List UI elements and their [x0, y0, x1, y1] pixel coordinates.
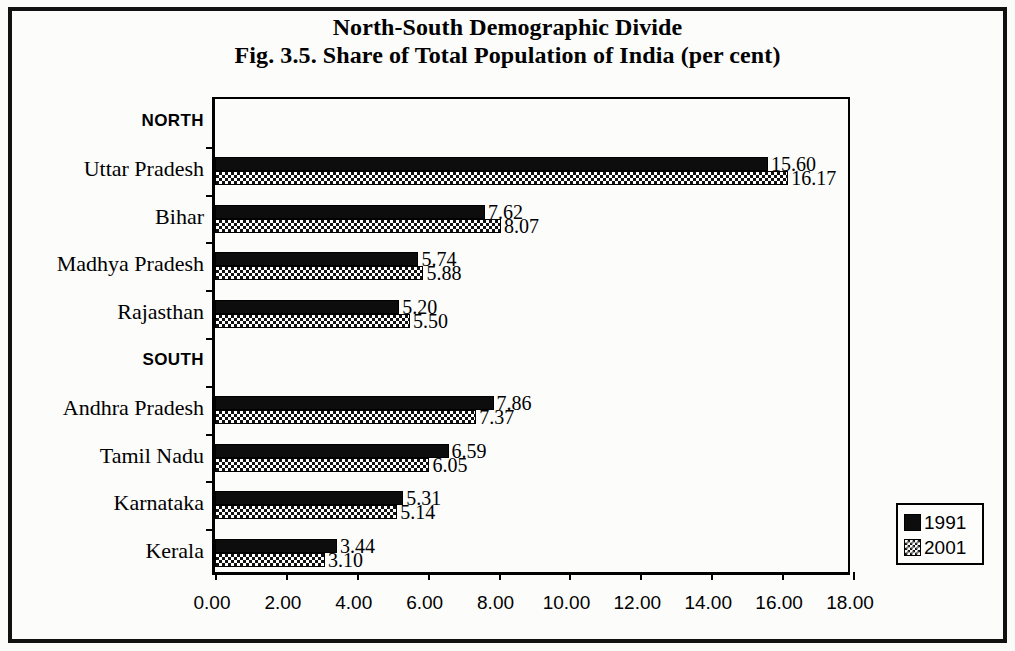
bar-karnataka-2001 [215, 505, 397, 519]
bar-value-rajasthan-2001: 5.50 [413, 311, 448, 331]
legend-label-2001: 2001 [924, 538, 966, 557]
bar-tamil-nadu-2001 [215, 458, 429, 472]
x-axis-tick [569, 572, 571, 580]
bar-tamil-nadu-1991 [215, 444, 449, 458]
category-label-madhya-pradesh: Madhya Pradesh [57, 252, 204, 276]
x-axis-label-4.00: 4.00 [335, 592, 372, 614]
category-label-kerala: Kerala [145, 539, 204, 563]
bar-value-uttar-pradesh-2001: 16.17 [791, 168, 836, 188]
category-label-andhra-pradesh: Andhra Pradesh [63, 396, 204, 420]
chart-title: North-South Demographic Divide [0, 14, 1015, 41]
bar-bihar-1991 [215, 205, 485, 219]
category-label-uttar-pradesh: Uttar Pradesh [84, 157, 204, 181]
x-axis-tick [853, 572, 855, 580]
bar-andhra-pradesh-2001 [215, 410, 476, 424]
y-axis-tick [206, 386, 215, 388]
x-axis-tick [428, 572, 430, 580]
group-label-south: SOUTH [143, 350, 205, 369]
category-label-tamil-nadu: Tamil Nadu [100, 444, 204, 468]
y-axis-tick [206, 338, 215, 340]
category-label-karnataka: Karnataka [114, 491, 204, 515]
y-axis-tick [206, 290, 215, 292]
bar-karnataka-1991 [215, 491, 403, 505]
x-axis-tick [215, 572, 217, 580]
bar-madhya-pradesh-1991 [215, 252, 418, 266]
y-axis-tick [206, 481, 215, 483]
bar-value-bihar-2001: 8.07 [504, 216, 539, 236]
bar-bihar-2001 [215, 219, 501, 233]
bar-kerala-1991 [215, 539, 337, 553]
bar-value-andhra-pradesh-2001: 7.37 [479, 407, 514, 427]
legend-item-1991: 1991 [904, 510, 978, 535]
chart-subtitle: Fig. 3.5. Share of Total Population of I… [0, 41, 1015, 70]
y-axis-tick [206, 195, 215, 197]
x-axis-label-10.00: 10.00 [543, 592, 591, 614]
bar-value-tamil-nadu-2001: 6.05 [432, 455, 467, 475]
x-axis-label-2.00: 2.00 [264, 592, 301, 614]
title-block: North-South Demographic Divide Fig. 3.5.… [0, 14, 1015, 70]
x-axis-label-12.00: 12.00 [614, 592, 662, 614]
x-axis-tick [640, 572, 642, 580]
x-axis-label-0.00: 0.00 [194, 592, 231, 614]
bar-madhya-pradesh-2001 [215, 266, 423, 280]
bar-uttar-pradesh-1991 [215, 157, 768, 171]
x-axis-label-14.00: 14.00 [684, 592, 732, 614]
y-axis-tick [206, 147, 215, 149]
chart-legend: 1991 2001 [896, 503, 984, 565]
legend-item-2001: 2001 [904, 535, 978, 560]
group-label-north: NORTH [142, 111, 204, 130]
bar-andhra-pradesh-1991 [215, 396, 494, 410]
bar-value-madhya-pradesh-2001: 5.88 [426, 263, 461, 283]
bar-rajasthan-2001 [215, 314, 410, 328]
bar-value-karnataka-2001: 5.14 [400, 502, 435, 522]
x-axis-tick [286, 572, 288, 580]
x-axis-label-6.00: 6.00 [406, 592, 443, 614]
x-axis-tick [499, 572, 501, 580]
legend-label-1991: 1991 [924, 513, 966, 532]
chart-page: North-South Demographic Divide Fig. 3.5.… [0, 0, 1015, 651]
x-axis-label-8.00: 8.00 [477, 592, 514, 614]
legend-swatch-1991 [904, 514, 921, 531]
x-axis-label-16.00: 16.00 [755, 592, 803, 614]
bar-value-kerala-2001: 3.10 [328, 550, 363, 570]
x-axis-tick [782, 572, 784, 580]
category-label-bihar: Bihar [155, 205, 204, 229]
legend-swatch-2001 [904, 539, 921, 556]
plot-area: 15.6016.177.628.075.745.885.205.507.867.… [212, 97, 850, 575]
bar-rajasthan-1991 [215, 300, 399, 314]
x-axis-label-18.00: 18.00 [826, 592, 874, 614]
y-axis-tick [206, 242, 215, 244]
bar-kerala-2001 [215, 553, 325, 567]
category-label-rajasthan: Rajasthan [117, 300, 204, 324]
bar-uttar-pradesh-2001 [215, 171, 788, 185]
y-axis-tick [206, 529, 215, 531]
x-axis-tick [357, 572, 359, 580]
x-axis-tick [711, 572, 713, 580]
y-axis-tick [206, 434, 215, 436]
